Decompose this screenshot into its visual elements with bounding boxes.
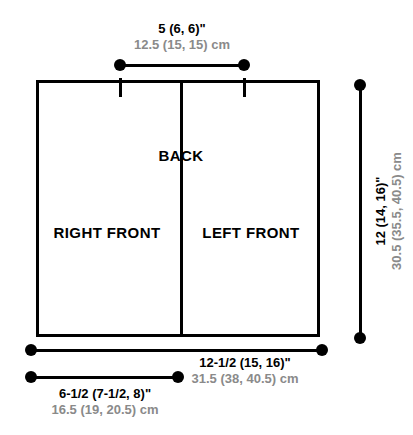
- dimension-value-inches: 6-1/2 (7-1/2, 8)": [52, 386, 159, 402]
- panel-label-back: BACK: [159, 147, 204, 164]
- dimension-value-cm: 30.5 (35.5, 40.5) cm: [389, 152, 405, 270]
- garment-schematic-diagram: BACK RIGHT FRONT LEFT FRONT 5 (6, 6)" 12…: [0, 0, 413, 435]
- dimension-label-length: 12 (14, 16)" 30.5 (35.5, 40.5) cm: [373, 152, 406, 270]
- dimension-label-front-width: 6-1/2 (7-1/2, 8)" 16.5 (19, 20.5) cm: [52, 386, 159, 419]
- dimension-endpoint-dot: [354, 332, 366, 344]
- dimension-value-cm: 12.5 (15, 15) cm: [134, 37, 230, 53]
- dimension-line-shoulder: [120, 64, 244, 67]
- dimension-endpoint-dot: [238, 59, 250, 71]
- garment-outline: [36, 80, 320, 337]
- dimension-endpoint-dot: [114, 59, 126, 71]
- dimension-line-total-width: [31, 349, 322, 352]
- dimension-line-front-width: [31, 376, 178, 379]
- dimension-value-cm: 16.5 (19, 20.5) cm: [52, 402, 159, 418]
- dimension-label-total-width: 12-1/2 (15, 16)" 31.5 (38, 40.5) cm: [192, 355, 299, 388]
- dimension-value-inches: 5 (6, 6)": [134, 21, 230, 37]
- dimension-endpoint-dot: [25, 371, 37, 383]
- dimension-value-inches: 12 (14, 16)": [373, 152, 389, 270]
- panel-label-left-front: LEFT FRONT: [202, 224, 299, 241]
- dimension-line-length: [359, 85, 362, 338]
- dimension-endpoint-dot: [25, 344, 37, 356]
- shoulder-tick-right: [243, 78, 246, 97]
- shoulder-tick-left: [119, 78, 122, 97]
- dimension-label-shoulder: 5 (6, 6)" 12.5 (15, 15) cm: [134, 21, 230, 54]
- dimension-endpoint-dot: [316, 344, 328, 356]
- dimension-value-cm: 31.5 (38, 40.5) cm: [192, 371, 299, 387]
- dimension-endpoint-dot: [354, 79, 366, 91]
- panel-label-right-front: RIGHT FRONT: [54, 224, 161, 241]
- dimension-value-inches: 12-1/2 (15, 16)": [192, 355, 299, 371]
- dimension-endpoint-dot: [172, 371, 184, 383]
- center-divider-line: [180, 80, 183, 337]
